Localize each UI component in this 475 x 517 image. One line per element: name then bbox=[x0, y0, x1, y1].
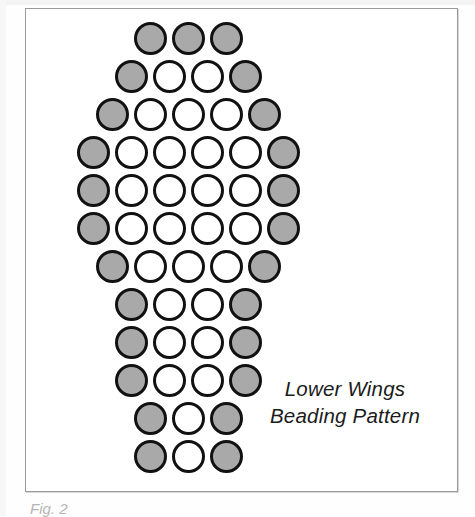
bead-filled bbox=[96, 98, 129, 131]
bead-empty bbox=[172, 250, 205, 283]
bead-empty bbox=[172, 98, 205, 131]
bead-row bbox=[96, 250, 286, 288]
bead-empty bbox=[153, 212, 186, 245]
bead-empty bbox=[153, 174, 186, 207]
bead-filled bbox=[115, 60, 148, 93]
bead-empty bbox=[191, 60, 224, 93]
bead-empty bbox=[153, 326, 186, 359]
bead-filled bbox=[134, 22, 167, 55]
bead-row bbox=[77, 212, 305, 250]
bead-filled bbox=[229, 326, 262, 359]
bead-empty bbox=[115, 212, 148, 245]
bead-row bbox=[77, 174, 305, 212]
bead-filled bbox=[210, 22, 243, 55]
bead-empty bbox=[115, 136, 148, 169]
bead-row bbox=[77, 136, 305, 174]
bead-row bbox=[96, 98, 286, 136]
bead-empty bbox=[191, 326, 224, 359]
caption-line-2: Beading Pattern bbox=[247, 402, 443, 429]
bead-row bbox=[134, 402, 248, 440]
bead-filled bbox=[248, 250, 281, 283]
bead-filled bbox=[210, 402, 243, 435]
figure-number-label: Fig. 2 bbox=[30, 500, 68, 517]
bead-filled bbox=[229, 288, 262, 321]
bead-filled bbox=[267, 212, 300, 245]
scan-edge-top bbox=[0, 0, 475, 5]
pattern-caption: Lower Wings Beading Pattern bbox=[247, 375, 443, 429]
bead-empty bbox=[134, 98, 167, 131]
figure-frame: Lower Wings Beading Pattern bbox=[25, 8, 458, 492]
bead-empty bbox=[229, 174, 262, 207]
bead-empty bbox=[191, 212, 224, 245]
bead-row bbox=[115, 60, 267, 98]
bead-filled bbox=[115, 326, 148, 359]
bead-filled bbox=[172, 22, 205, 55]
bead-row bbox=[134, 440, 248, 478]
bead-filled bbox=[134, 402, 167, 435]
bead-row bbox=[115, 364, 267, 402]
bead-empty bbox=[172, 402, 205, 435]
bead-empty bbox=[191, 136, 224, 169]
bead-filled bbox=[77, 136, 110, 169]
bead-filled bbox=[267, 136, 300, 169]
bead-empty bbox=[153, 60, 186, 93]
bead-empty bbox=[115, 174, 148, 207]
bead-row bbox=[134, 22, 248, 60]
bead-filled bbox=[210, 440, 243, 473]
bead-empty bbox=[210, 98, 243, 131]
bead-row bbox=[115, 288, 267, 326]
bead-empty bbox=[153, 136, 186, 169]
bead-empty bbox=[210, 250, 243, 283]
bead-empty bbox=[229, 212, 262, 245]
bead-filled bbox=[248, 98, 281, 131]
bead-empty bbox=[229, 136, 262, 169]
bead-filled bbox=[229, 60, 262, 93]
bead-row bbox=[115, 326, 267, 364]
bead-empty bbox=[191, 288, 224, 321]
bead-filled bbox=[77, 212, 110, 245]
bead-filled bbox=[77, 174, 110, 207]
bead-empty bbox=[172, 440, 205, 473]
bead-filled bbox=[115, 288, 148, 321]
bead-empty bbox=[191, 174, 224, 207]
bead-empty bbox=[134, 250, 167, 283]
caption-line-1: Lower Wings bbox=[247, 375, 443, 402]
bead-filled bbox=[267, 174, 300, 207]
bead-empty bbox=[153, 364, 186, 397]
bead-filled bbox=[134, 440, 167, 473]
bead-filled bbox=[96, 250, 129, 283]
bead-filled bbox=[115, 364, 148, 397]
scan-edge-left bbox=[0, 0, 6, 516]
bead-empty bbox=[191, 364, 224, 397]
bead-empty bbox=[153, 288, 186, 321]
